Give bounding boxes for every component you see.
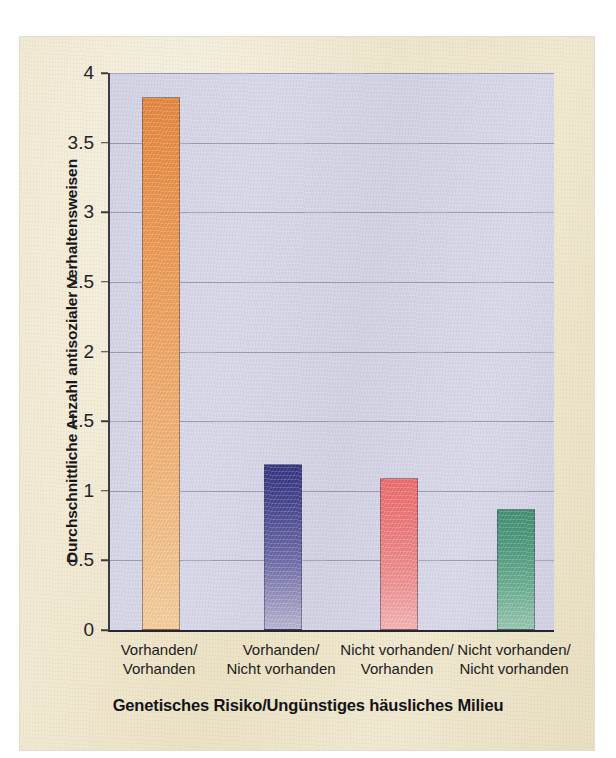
y-tick-mark	[101, 72, 108, 74]
y-tick-mark	[101, 142, 108, 144]
y-tick-mark	[101, 420, 108, 422]
bar	[264, 464, 302, 630]
x-category-label-line1: Nicht vorhanden/	[434, 640, 594, 659]
bar	[497, 509, 535, 630]
y-tick-mark	[101, 629, 108, 631]
x-category-label: Nicht vorhanden/Nicht vorhanden	[434, 640, 594, 678]
y-tick-mark	[101, 560, 108, 562]
bar-chart-figure: Durchschnittliche Anzahl antisozialer Ve…	[0, 0, 616, 758]
bar	[380, 478, 418, 630]
y-tick-mark	[101, 212, 108, 214]
bar	[142, 97, 180, 630]
gridline	[110, 73, 554, 74]
y-tick-mark	[101, 490, 108, 492]
plot-area	[108, 73, 554, 632]
x-category-label-line2: Nicht vorhanden	[434, 659, 594, 678]
y-tick-mark	[101, 351, 108, 353]
y-axis-tick-marks	[0, 73, 108, 630]
x-axis-title: Genetisches Risiko/Ungünstiges häusliche…	[0, 696, 616, 715]
y-tick-mark	[101, 281, 108, 283]
